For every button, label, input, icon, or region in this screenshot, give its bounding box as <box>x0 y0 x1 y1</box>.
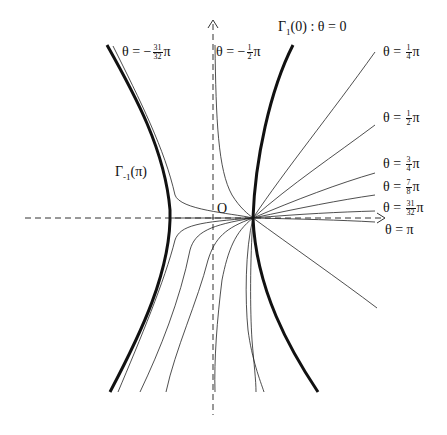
gamma-1-arg: (0) : θ = 0 <box>291 19 347 34</box>
theta-label-pos-1-4: θ = 14π <box>383 44 420 61</box>
gamma-neg1-label: Γ-1(π) <box>115 165 147 179</box>
theta-label-neg-1-2: θ = −12π <box>216 44 261 61</box>
gamma-neg1-sub: -1 <box>123 172 131 182</box>
curve-pi <box>253 218 375 222</box>
gamma-1-sub: 1 <box>286 27 291 37</box>
theta-label-pos-1-2: θ = 12π <box>383 110 420 127</box>
origin-label: O <box>217 202 227 216</box>
curve-lower-right <box>253 218 377 308</box>
theta-label-neg-31-32: θ = −3132π <box>122 44 171 61</box>
curve-lower-2 <box>140 218 253 392</box>
gamma-neg1-main: Γ <box>115 164 123 179</box>
curve-neg-1-2 <box>215 45 253 218</box>
curve-neg-31-32 <box>113 46 253 218</box>
curve-lower-4 <box>215 218 253 392</box>
diagram-canvas <box>0 0 447 435</box>
curve-pos-7-8 <box>253 195 375 218</box>
gamma-1-label: Γ1(0) : θ = 0 <box>278 20 346 34</box>
gamma-neg1-arg: (π) <box>131 164 147 179</box>
curve-lower-3 <box>166 218 253 392</box>
theta-label-pos-3-4: θ = 34π <box>383 156 420 173</box>
theta-label-pos-31-32: θ = 3132π <box>383 200 424 217</box>
theta-label-pi: θ = π <box>385 223 414 237</box>
gamma-1-main: Γ <box>278 19 286 34</box>
theta-label-pos-7-8: θ = 78π <box>383 179 420 196</box>
curve-pos-1-2 <box>253 125 375 218</box>
axes <box>25 20 385 415</box>
